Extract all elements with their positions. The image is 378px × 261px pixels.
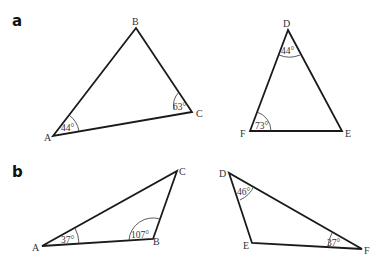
triangle-def-b: 46° 37° D E F <box>219 168 370 256</box>
panel-label-a: a <box>12 12 22 30</box>
triangle-def-outline <box>229 173 362 249</box>
triangle-def-a: 44° 73° D E F <box>240 18 351 139</box>
angle-label-a: 37° <box>61 235 75 245</box>
vertex-label-b: B <box>132 16 139 27</box>
angle-label-d: 44° <box>281 46 295 56</box>
angle-arc-a <box>75 228 79 244</box>
vertex-label-c: C <box>196 108 203 119</box>
vertex-label-a: A <box>44 132 52 143</box>
vertex-label-d: D <box>283 18 290 29</box>
vertex-label-f: F <box>240 128 246 139</box>
angle-label-c: 63° <box>173 102 187 112</box>
angle-label-b: 107° <box>131 230 149 240</box>
triangle-abc-a: 44° 63° A B C <box>44 16 203 143</box>
vertex-label-d: D <box>219 168 226 179</box>
vertex-label-c: C <box>179 166 186 177</box>
angle-label-a: 44° <box>61 123 75 133</box>
vertex-label-a: A <box>32 242 40 253</box>
angle-label-f: 37° <box>327 238 341 248</box>
vertex-label-e: E <box>345 128 351 139</box>
vertex-label-f: F <box>364 245 370 256</box>
panel-label-b: b <box>12 163 23 181</box>
vertex-label-e: E <box>243 240 249 251</box>
triangle-abc-b: 37° 107° A B C <box>32 166 186 253</box>
angle-label-f: 73° <box>255 121 269 131</box>
triangles-diagram: a 44° 63° A B C 44° 73° D E F b 37° 107°… <box>0 0 378 261</box>
angle-label-d: 46° <box>237 187 251 197</box>
vertex-label-b: B <box>153 236 160 247</box>
